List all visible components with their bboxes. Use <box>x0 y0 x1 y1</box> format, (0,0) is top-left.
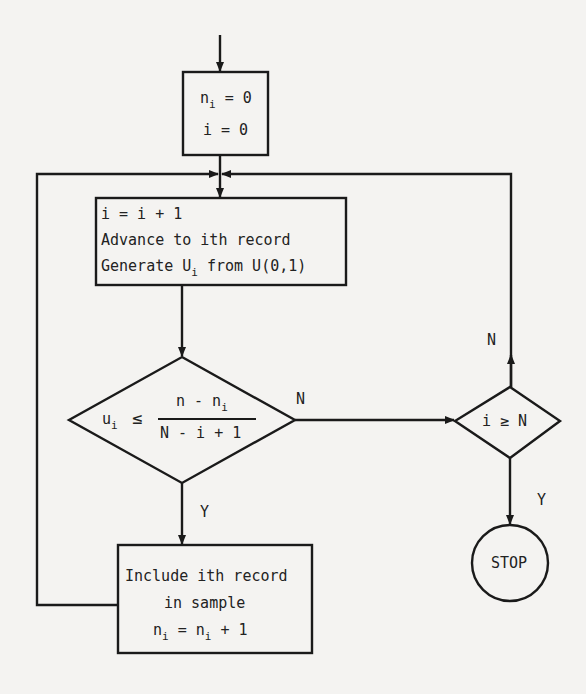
include-eq: = n <box>169 621 205 639</box>
d2-no-label: N <box>487 333 496 348</box>
numerator-text: n - n <box>176 392 221 410</box>
process-from: from U(0,1) <box>198 257 306 275</box>
decision-denominator: N - i + 1 <box>160 426 241 441</box>
include-n2-sub: i <box>205 630 212 643</box>
d2-yes-label: Y <box>537 493 546 508</box>
process-line2: Advance to ith record <box>101 228 291 253</box>
include-n-var: n <box>153 621 162 639</box>
init-n-rest: = 0 <box>216 89 252 107</box>
lhs-u-sub: i <box>111 419 118 432</box>
include-line3: ni = ni + 1 <box>153 618 248 644</box>
lhs-u-var: u <box>102 410 111 428</box>
decision-end-text: i ≥ N <box>482 414 527 429</box>
init-n-var: n <box>200 89 209 107</box>
init-line1: ni = 0 <box>200 86 252 112</box>
include-line2: in sample <box>164 591 245 616</box>
d1-yes-label: Y <box>200 505 209 520</box>
include-line1: Include ith record <box>125 564 288 589</box>
process-line1: i = i + 1 <box>101 202 182 227</box>
decision-lhs: ui <box>102 412 118 427</box>
flowchart-canvas <box>0 0 586 694</box>
process-generate: Generate U <box>101 257 191 275</box>
numerator-sub: i <box>221 401 228 414</box>
d1-no-label: N <box>296 392 305 407</box>
init-n-sub: i <box>209 98 216 111</box>
include-plus: + 1 <box>211 621 247 639</box>
stop-text: STOP <box>491 556 527 571</box>
include-n-sub: i <box>162 630 169 643</box>
decision-op: ≤ <box>132 410 142 427</box>
loop-back-right-line <box>222 174 511 387</box>
process-u-sub: i <box>191 266 198 279</box>
init-line2: i = 0 <box>203 118 248 143</box>
decision-numerator: n - ni <box>176 394 228 409</box>
process-line3: Generate Ui from U(0,1) <box>101 254 306 280</box>
